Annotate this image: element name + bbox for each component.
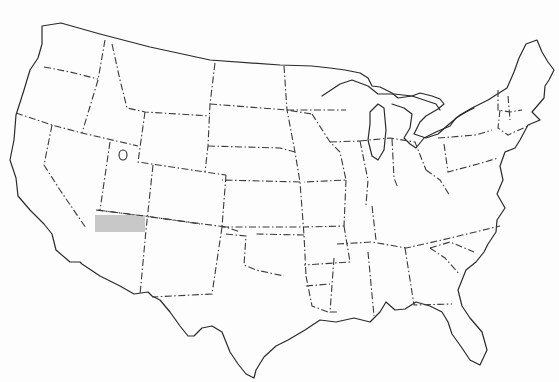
us-map-svg	[0, 0, 559, 382]
state-borders	[16, 40, 530, 316]
us-map	[0, 0, 559, 382]
us-outline	[10, 23, 554, 378]
lake-michigan	[368, 104, 386, 160]
lower-michigan	[392, 104, 474, 148]
great-salt-lake	[119, 150, 127, 160]
highlighted-region	[95, 215, 145, 232]
